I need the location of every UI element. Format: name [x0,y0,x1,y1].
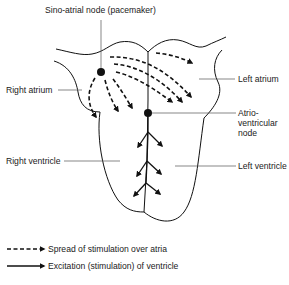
av-node-label-line2: ventricular [238,118,278,128]
av-node-label-line3: node [238,128,257,138]
heart-diagram: Sino-atrial node (pacemaker) Right atriu… [0,0,289,285]
solid-arrow [147,161,161,174]
sa-node-label: Sino-atrial node (pacemaker) [45,5,156,15]
av-node-label-line1: Atrio- [238,108,259,118]
solid-arrow [148,132,162,146]
dashed-arrow [116,72,172,102]
left-ventricle-label: Left ventricle [238,161,287,171]
conduction-line [146,161,147,183]
right-atrium-top-outline [56,41,148,54]
right-ventricle-label: Right ventricle [6,156,61,166]
heart-outline [54,37,226,221]
av-node-dot [144,109,152,117]
left-atrium-label: Left atrium [238,74,279,84]
right-ventricle-outline [99,112,144,212]
sa-node-dot [97,68,105,76]
legend-label-atria: Spread of stimulation over atria [48,244,167,254]
atrial-spread-arrows [89,53,192,117]
solid-arrow [134,183,146,196]
left-atrium-outer-outline [204,50,222,118]
left-atrium-top-outline [148,37,226,52]
dashed-arrow [156,53,192,63]
legend-label-ventricle: Excitation (stimulation) of ventricle [48,261,179,271]
right-atrium-outer-outline [54,61,100,112]
left-ventricle-outline [144,118,204,221]
right-atrium-label: Right atrium [6,85,52,95]
solid-arrow [138,132,148,147]
ventricle-excitation-arrows [134,117,162,196]
solid-arrow [137,161,147,176]
dashed-arrow [113,79,132,108]
legend: Spread of stimulation over atria Excitat… [7,244,179,271]
dashed-arrow [105,80,118,111]
solid-arrow [146,183,160,194]
